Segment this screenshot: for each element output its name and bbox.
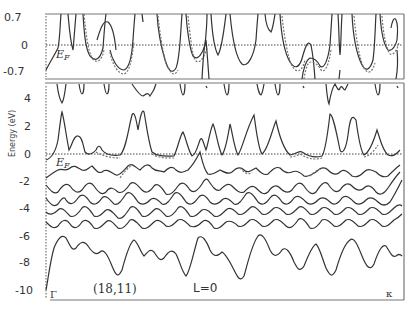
tick-neg4: -4: [19, 202, 30, 215]
band-structure-chart: 0.7 0 -0.7 4 2 0 -2 -4 -6 -8 -10 Energy …: [0, 0, 415, 314]
tick-neg6: -6: [19, 230, 30, 243]
tick-neg2: -2: [19, 175, 30, 188]
top-tick-neg0.7: -0.7: [3, 65, 24, 78]
top-tick-0.7: 0.7: [4, 11, 22, 24]
gamma-label: Γ: [50, 289, 57, 300]
tick-neg10: -10: [15, 284, 33, 297]
l-value-label: L=0: [193, 281, 217, 295]
tick-0: 0: [24, 148, 31, 161]
chirality-label: (18,11): [93, 282, 137, 296]
tick-4: 4: [24, 92, 31, 105]
y-axis-label: Energy (eV): [8, 110, 17, 157]
tick-neg8: -8: [19, 256, 30, 269]
bottom-fermi-label: EF: [55, 156, 70, 170]
top-tick-0: 0: [21, 39, 28, 52]
kappa-label: κ: [386, 288, 393, 299]
bottom-panel-bands: [46, 84, 402, 290]
top-panel-bands: [46, 14, 399, 79]
tick-2: 2: [24, 120, 31, 133]
